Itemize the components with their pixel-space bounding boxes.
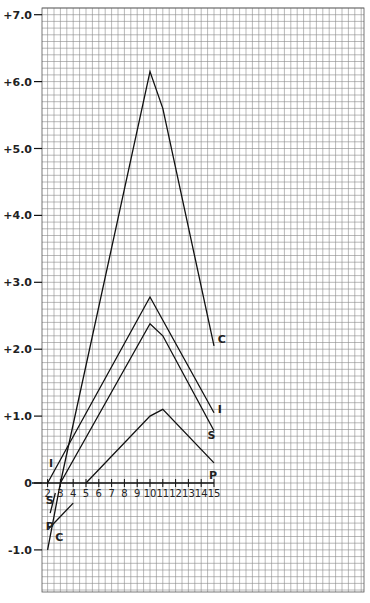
x-tick-label: 7	[108, 488, 114, 499]
y-tick-label: -1.0	[8, 544, 32, 557]
y-tick-label: +2.0	[3, 343, 32, 356]
y-tick-label: +3.0	[3, 276, 32, 289]
x-tick-label: 11	[156, 488, 169, 499]
grid-border	[42, 8, 364, 592]
x-tick-label: 14	[195, 488, 208, 499]
x-tick-label: 6	[96, 488, 102, 499]
series-label-s-lower: S	[46, 494, 54, 507]
series-label-i: I	[218, 403, 222, 416]
series-label-i-lower: I	[49, 457, 53, 470]
line-chart: 23456789101112131415+7.0+6.0+5.0+4.0+3.0…	[0, 0, 370, 603]
series-label-c: C	[218, 333, 226, 346]
x-tick-label: 9	[134, 488, 140, 499]
y-tick-label: +7.0	[3, 9, 32, 22]
series-label-s: S	[208, 429, 216, 442]
x-tick-label: 5	[83, 488, 89, 499]
x-tick-label: 4	[70, 488, 76, 499]
x-tick-label: 8	[121, 488, 127, 499]
y-tick-label: 0	[24, 477, 32, 490]
y-tick-label: +4.0	[3, 209, 32, 222]
x-tick-label: 13	[182, 488, 195, 499]
y-tick-label: +5.0	[3, 143, 32, 156]
series-label-p-lower: P	[46, 520, 54, 533]
grid-paper	[42, 8, 364, 592]
y-tick-label: +1.0	[3, 410, 32, 423]
x-tick-label: 10	[144, 488, 157, 499]
series-label-p: P	[209, 469, 217, 482]
x-tick-label: 15	[208, 488, 221, 499]
y-tick-label: +6.0	[3, 76, 32, 89]
x-tick-label: 12	[169, 488, 182, 499]
series-label-c-lower: C	[55, 531, 63, 544]
